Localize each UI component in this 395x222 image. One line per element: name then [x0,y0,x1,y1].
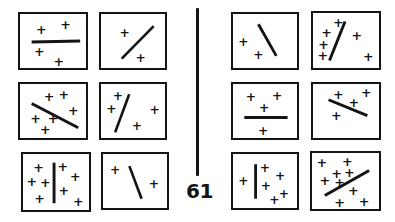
plus-mark: + [149,177,159,191]
plus-marks-layer: ++ [238,35,263,62]
plus-mark: + [246,90,256,104]
plus-mark: + [40,124,51,138]
plus-mark: + [279,187,289,201]
panel-shallow-diagonal-down-4-plus: ++++ [311,82,381,140]
panel-canvas: ++++++++ [23,154,89,210]
plus-mark: + [272,89,282,103]
plus-mark: + [258,124,268,138]
panel-canvas: ++++ [20,14,86,68]
panel-canvas: ++++++ [313,13,379,68]
plus-mark: + [34,191,45,206]
page-number: 61 [186,180,212,202]
plus-mark: + [34,45,45,59]
plus-mark: + [363,49,374,64]
panel-canvas: ++++ [313,84,379,138]
plus-mark: + [319,174,330,189]
panel-horizontal-line-2-above-2-below: ++++ [18,12,88,70]
plus-mark: + [238,35,248,49]
panel-line-horizontal [32,41,81,42]
plus-marks-layer: ++++ [106,89,160,133]
plus-mark: + [110,163,120,177]
plus-mark: + [260,161,270,175]
plus-mark: + [361,86,372,100]
plus-mark: + [73,194,84,209]
plus-mark: + [317,48,328,63]
plus-marks-layer: ++++ [331,86,372,123]
panel-canvas: ++++++ [233,154,297,208]
vertical-rule-divider [196,8,199,176]
panel-vertical-line-4-left-4-right: ++++++++ [21,152,91,212]
plus-mark: + [33,160,44,175]
plus-mark: + [68,104,79,118]
plus-mark: + [331,110,342,124]
plus-mark: + [132,119,142,133]
panel-steep-diagonal-4-plus: ++++ [99,82,167,140]
plus-mark: + [259,101,269,115]
plus-mark: + [40,175,51,190]
figure-root: ++++ ++ ++++++ ++++ ++++++++ ++ 61 ++ ++… [0,0,395,222]
plus-mark: + [58,183,69,198]
plus-mark: + [333,88,344,102]
plus-mark: + [44,90,55,104]
plus-marks-layer: ++++++ [238,161,289,207]
left-panel-group: ++++ ++ ++++++ ++++ ++++++++ ++ [0,0,175,222]
plus-mark: + [113,89,123,103]
plus-mark: + [26,175,37,190]
plus-mark: + [54,56,65,68]
panel-horizontal-line-3-above-1-below: ++++ [231,82,299,140]
plus-mark: + [275,169,285,183]
right-panel-group: ++ ++++++ ++++ ++++ ++++++ +++++++++ [215,0,395,222]
plus-mark: + [58,159,69,174]
plus-mark: + [238,174,248,188]
plus-mark: + [351,28,362,43]
plus-mark: + [150,103,160,117]
panel-steep-diagonal-down-2-plus: ++ [231,12,299,70]
plus-mark: + [36,23,47,37]
plus-mark: + [106,102,116,116]
plus-mark: + [60,18,71,32]
panel-canvas: ++++ [233,84,297,138]
plus-marks-layer: ++++ [246,89,283,137]
panel-vertical-line-1-left-5-right: ++++++ [231,152,299,210]
panel-canvas: ++++ [101,84,165,138]
plus-mark: + [359,194,370,209]
panel-steep-diagonal-2-plus: ++ [101,152,169,210]
plus-mark: + [348,97,359,111]
panel-canvas: ++ [103,154,167,208]
panel-diagonal-up-9-plus: +++++++++ [310,151,381,211]
panel-line-steep-down [129,166,141,199]
panel-canvas: ++ [101,14,165,68]
panel-diagonal-down-6-plus: ++++++ [18,82,88,140]
plus-mark: + [135,51,145,65]
plus-mark: + [58,88,69,102]
plus-mark: + [316,155,327,170]
panel-canvas: ++++++ [20,84,86,138]
panel-diagonal-up-2-plus: ++ [99,12,167,70]
panel-canvas: +++++++++ [312,153,379,209]
plus-mark: + [344,165,355,180]
plus-mark: + [334,195,345,209]
plus-mark: + [70,169,81,184]
panel-steep-diagonal-up-6-plus: ++++++ [311,11,381,70]
plus-marks-layer: ++++++ [30,88,78,137]
plus-mark: + [261,179,271,193]
plus-mark: + [348,183,359,198]
plus-mark: + [334,176,345,191]
plus-mark: + [333,15,344,30]
plus-marks-layer: +++++++++ [316,154,369,209]
plus-mark: + [253,48,263,62]
plus-mark: + [269,193,279,207]
plus-mark: + [119,26,129,40]
panel-canvas: ++ [233,14,297,68]
